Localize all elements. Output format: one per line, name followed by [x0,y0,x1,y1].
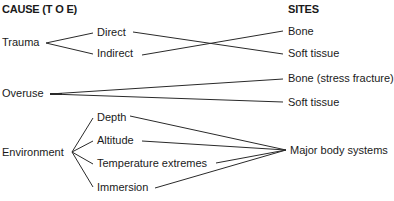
site-soft-tissue-overuse: Soft tissue [288,96,339,109]
trauma-to-indirect-line [46,43,93,54]
cause-header: CAUSE (T O E) [2,3,77,16]
env-altitude: Altitude [97,134,134,147]
trauma-direct: Direct [97,26,126,39]
overuse-to-bone-line [50,79,283,94]
cause-environment: Environment [2,146,64,159]
cause-trauma: Trauma [2,36,40,49]
site-soft-tissue: Soft tissue [288,47,339,60]
env-depth: Depth [97,111,126,124]
overuse-to-soft-tissue-line [50,94,283,102]
env-to-immersion-line [72,152,93,187]
trauma-to-direct-line [46,33,93,43]
env-immersion: Immersion [97,181,148,194]
env-temperature-extremes: Temperature extremes [97,157,207,170]
site-major-body-systems: Major body systems [290,144,388,157]
trauma-indirect: Indirect [97,47,133,60]
temperature-to-major-line [216,150,286,163]
sites-header: SITES [288,3,319,16]
cause-overuse: Overuse [2,87,44,100]
site-bone: Bone [288,25,314,38]
site-bone-stress-fracture: Bone (stress fracture) [288,72,394,85]
